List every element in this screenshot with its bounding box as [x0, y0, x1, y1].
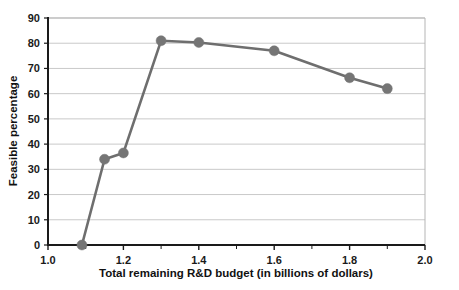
data-point-marker	[118, 148, 128, 158]
y-axis-title: Feasible percentage	[7, 76, 19, 187]
x-tick-label: 1.0	[40, 254, 55, 266]
y-tick-label: 60	[28, 88, 40, 100]
x-tick-label: 1.6	[267, 254, 282, 266]
line-chart: 0102030405060708090 1.01.21.41.61.82.0 T…	[0, 0, 459, 290]
y-axis	[44, 17, 48, 245]
plot-frame	[48, 18, 425, 245]
data-point-marker	[382, 84, 392, 94]
data-point-marker	[194, 37, 204, 47]
x-tick-label: 2.0	[417, 254, 432, 266]
x-axis-title: Total remaining R&D budget (in billions …	[99, 267, 373, 279]
y-tick-label: 20	[28, 189, 40, 201]
y-tick-label: 0	[34, 239, 40, 251]
series-polyline	[82, 41, 387, 245]
y-tick-label: 30	[28, 163, 40, 175]
y-tick-label: 40	[28, 138, 40, 150]
x-tick-label: 1.2	[116, 254, 131, 266]
y-tick-label: 10	[28, 214, 40, 226]
data-point-marker	[269, 46, 279, 56]
x-tick-labels: 1.01.21.41.61.82.0	[40, 254, 432, 266]
y-tick-label: 50	[28, 113, 40, 125]
y-tick-label: 90	[28, 12, 40, 24]
y-tick-labels: 0102030405060708090	[28, 12, 40, 251]
grid-lines	[48, 18, 425, 220]
y-tick-label: 70	[28, 62, 40, 74]
data-line-feasible-percentage	[82, 41, 387, 245]
chart-container: 0102030405060708090 1.01.21.41.61.82.0 T…	[0, 0, 459, 290]
data-point-marker	[77, 240, 87, 250]
data-point-marker	[345, 73, 355, 83]
data-point-marker	[156, 36, 166, 46]
data-point-marker	[100, 154, 110, 164]
x-tick-label: 1.4	[191, 254, 207, 266]
x-tick-label: 1.8	[342, 254, 357, 266]
y-tick-label: 80	[28, 37, 40, 49]
data-markers-feasible-percentage	[77, 36, 392, 250]
x-axis	[47, 245, 425, 250]
